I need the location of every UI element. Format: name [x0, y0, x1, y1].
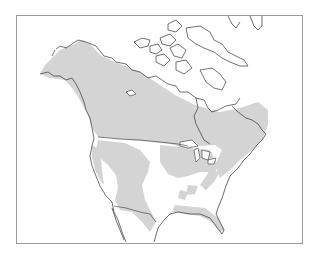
range-map: [0, 0, 317, 255]
